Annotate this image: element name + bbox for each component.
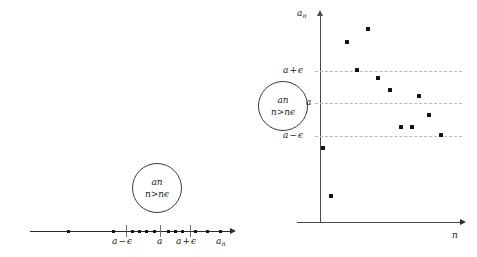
scatter-point — [321, 146, 324, 149]
number-line-label-a-minus-eps: a−ϵ — [112, 237, 132, 246]
annotation-line-1: an — [151, 177, 162, 187]
number-line-point — [145, 230, 148, 233]
number-line-label-a-plus-eps: a+ϵ — [176, 237, 196, 246]
scatter-point — [399, 125, 402, 128]
y-axis-arrow-icon — [317, 10, 323, 16]
gridline-label-a-minus-eps: a−ϵ — [283, 131, 303, 140]
y-axis-label: an — [297, 9, 307, 19]
number-line-point — [219, 230, 222, 233]
annotation-circle-right: an n>nϵ — [258, 81, 308, 131]
scatter-point — [439, 133, 442, 136]
gridline-a-plus-eps — [315, 71, 462, 72]
number-line-label-a: a — [157, 237, 162, 246]
number-line-axis-label: an — [216, 237, 226, 247]
annotation-line-2: n>nϵ — [145, 189, 169, 199]
number-line-point — [194, 230, 197, 233]
number-line-point — [67, 230, 70, 233]
scatter-point — [376, 76, 379, 79]
number-line-point — [206, 230, 209, 233]
number-line-point — [174, 230, 177, 233]
scatter-point — [355, 68, 358, 71]
number-line-point — [138, 230, 141, 233]
scatter-point — [417, 94, 420, 97]
annotation-line-1: an — [277, 95, 288, 105]
scatter-point — [410, 125, 413, 128]
scatter-point — [427, 113, 430, 116]
x-axis-arrow-icon — [460, 219, 466, 225]
number-line-point — [112, 230, 115, 233]
scatter-point — [388, 88, 391, 91]
y-axis — [320, 16, 321, 222]
scatter-plot-panel: a+ϵ a a−ϵ an n an n>nϵ — [240, 0, 477, 257]
number-line-point — [181, 230, 184, 233]
gridline-label-a-plus-eps: a+ϵ — [283, 66, 303, 75]
annotation-line-2: n>nϵ — [271, 107, 295, 117]
scatter-point — [329, 194, 332, 197]
number-line-arrow-right-icon — [230, 228, 236, 234]
number-line-point — [153, 230, 156, 233]
number-line-point — [167, 230, 170, 233]
scatter-point — [345, 40, 348, 43]
x-axis — [297, 222, 462, 223]
number-line-point — [131, 230, 134, 233]
convergence-figure: an n>nϵ a−ϵ a a+ϵ an — [0, 0, 477, 257]
x-axis-label: n — [452, 231, 458, 240]
scatter-point — [366, 27, 369, 30]
number-line-panel: an n>nϵ a−ϵ a a+ϵ an — [0, 0, 240, 257]
gridline-a — [315, 103, 462, 104]
annotation-circle-left: an n>nϵ — [132, 163, 182, 213]
